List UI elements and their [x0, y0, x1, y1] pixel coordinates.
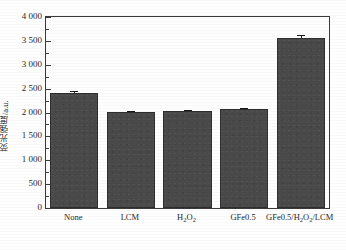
bar — [277, 38, 325, 208]
y-axis-tick-minor — [46, 77, 49, 78]
y-axis-tick-major — [46, 89, 51, 90]
y-axis-tick-minor — [46, 124, 49, 125]
y-axis-tick-minor — [46, 29, 49, 30]
error-bar-cap — [184, 110, 192, 111]
y-axis-tick-label: 4 000 — [2, 12, 42, 21]
y-axis-tick-label: 1 000 — [2, 155, 42, 164]
y-axis-tick-major — [46, 208, 51, 209]
error-bar-cap — [70, 91, 78, 92]
y-axis-tick-label: 2 500 — [2, 84, 42, 93]
y-axis-tick-minor — [46, 196, 49, 197]
bar — [220, 109, 268, 208]
y-axis-tick-minor — [46, 148, 49, 149]
x-axis-tick-label: GFe0.5/H2O2/LCM — [260, 212, 340, 222]
y-axis-tick-label: 3 000 — [2, 60, 42, 69]
y-axis-tick-major — [46, 65, 51, 66]
bar — [50, 93, 98, 208]
y-axis-tick-label: 1 500 — [2, 131, 42, 140]
bar-chart-figure: 荧光强度/a.u. 4 0003 5003 0002 5002 0001 500… — [0, 0, 346, 250]
y-axis-tick-label: 500 — [2, 179, 42, 188]
y-axis-tick-minor — [46, 53, 49, 54]
y-axis-tick-major — [46, 17, 51, 18]
error-bar-cap — [127, 111, 135, 112]
error-bar-cap — [297, 35, 305, 36]
y-axis-tick-label: 0 — [2, 203, 42, 212]
y-axis-tick-major — [46, 41, 51, 42]
y-axis-tick-minor — [46, 101, 49, 102]
bar — [163, 111, 211, 208]
bar — [107, 112, 155, 208]
error-bar-cap — [240, 108, 248, 109]
y-axis-tick-label: 2 000 — [2, 108, 42, 117]
y-axis-tick-label: 3 500 — [2, 36, 42, 45]
y-axis-tick-minor — [46, 172, 49, 173]
plot-area: 4 0003 5003 0002 5002 0001 5001 0005000 — [45, 16, 330, 209]
